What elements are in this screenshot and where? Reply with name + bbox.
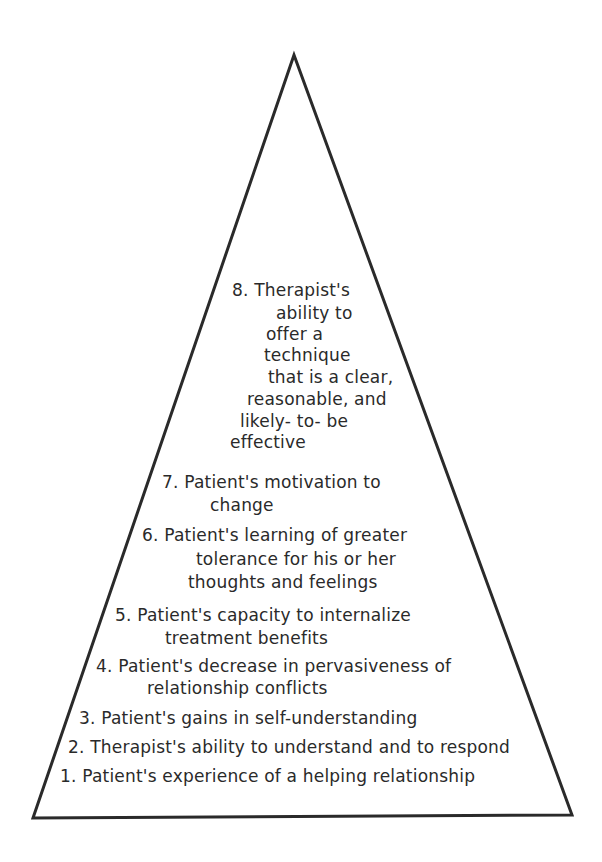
level-8-line-1: 8. Therapist's [232, 280, 350, 300]
level-4-line-1: 4. Patient's decrease in pervasiveness o… [96, 656, 451, 676]
level-7-line-2: change [210, 495, 274, 515]
level-8-line-8: effective [230, 432, 306, 452]
level-8-line-7: likely- to- be [240, 411, 348, 431]
level-8-line-2: ability to [276, 303, 353, 323]
level-8-line-3: offer a [266, 324, 323, 344]
level-7-line-1: 7. Patient's motivation to [162, 472, 381, 492]
level-8-line-6: reasonable, and [247, 389, 387, 409]
level-8-line-5: that is a clear, [268, 367, 393, 387]
pyramid-outline [0, 0, 602, 862]
level-2-line-1: 2. Therapist's ability to understand and… [68, 737, 510, 757]
level-1-line-1: 1. Patient's experience of a helping rel… [60, 766, 475, 786]
level-5-line-1: 5. Patient's capacity to internalize [115, 605, 411, 625]
level-4-line-2: relationship conflicts [147, 678, 328, 698]
level-8-line-4: technique [264, 345, 351, 365]
level-5-line-2: treatment benefits [165, 628, 328, 648]
level-6-line-3: thoughts and feelings [188, 572, 377, 592]
level-6-line-1: 6. Patient's learning of greater [142, 525, 407, 545]
level-6-line-2: tolerance for his or her [196, 549, 396, 569]
level-3-line-1: 3. Patient's gains in self-understanding [79, 708, 417, 728]
